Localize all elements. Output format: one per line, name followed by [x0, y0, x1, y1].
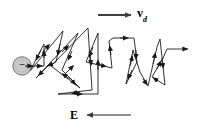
path-direction-arrowheads [36, 38, 163, 94]
drift-velocity-subscript: d [143, 15, 147, 24]
drift-velocity-label: vd [137, 7, 147, 22]
electric-field-label: E [70, 109, 78, 121]
electron-random-walk-path [30, 28, 167, 94]
diagram-canvas [0, 0, 197, 129]
electron-drift-diagram: vd E − [0, 0, 197, 129]
electron-charge-sign: − [16, 60, 28, 70]
